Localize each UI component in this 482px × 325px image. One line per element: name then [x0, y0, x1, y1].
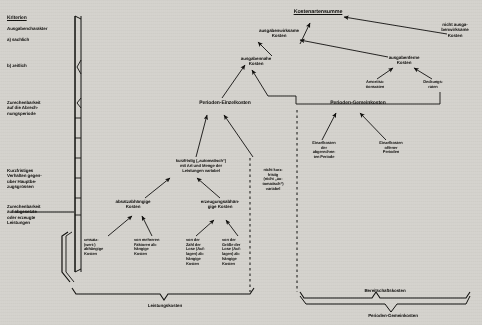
bracket-label-leistungskosten: Leistungskosten: [130, 303, 200, 308]
bracket-label-perioden-gemeinkosten: Perioden-Gemeinkosten: [348, 313, 438, 318]
arrow-zahl-to-erzeugung: [196, 220, 214, 236]
brace-leistungskosten: [72, 288, 254, 300]
arrow-erzeugung-to-kurzfristig: [197, 178, 220, 198]
arrow-kurzfristig-to-einzel: [196, 115, 207, 157]
node-ausgabenwirksame-kosten: ausgabenwirksame Kosten: [248, 28, 310, 39]
arrow-abgerechnet-to-gemein: [322, 113, 336, 140]
node-erzeugungsabhaengige-kosten: erzeugungsabhän- gige Kosten: [188, 199, 252, 210]
node-einzelkosten-offener-perioden: Einzelkosten offener Perioden: [370, 141, 412, 155]
arrow-umsatz-to-absatz: [108, 216, 132, 236]
node-nicht-ausgabenwirksame-kosten: nicht ausga- benwirksame Kosten: [432, 22, 478, 38]
criteria-item-ausgabencharakter: Ausgabencharakter: [7, 26, 47, 31]
criteria-item-sachlich: a) sachlich: [7, 37, 29, 42]
arrow-nahe-to-wirksam: [258, 42, 272, 56]
node-groesse-der-lose-kosten: von der Größe der Lose (Auf- lagen) ab- …: [222, 238, 256, 266]
node-amortisationsraten: Amortisa- tionsraten: [355, 80, 395, 89]
criteria-item-zurechenbarkeit-leistungen: Zurechenbarkeit auf abgesetzte oder erze…: [7, 204, 41, 225]
node-ausgabennahe-kosten: ausgabennahe Kosten: [228, 56, 284, 67]
node-mehrere-faktoren-kosten: von mehreren Faktoren ab- hängige Kosten: [134, 238, 174, 257]
arrow-amortisation-to-ferne: [377, 68, 393, 79]
node-umsatzabhaengige-kosten: umsatz- (wert-) abhängige Kosten: [84, 238, 120, 257]
arrow-periodengemein-to-nahe: [252, 70, 296, 104]
arrow-absatz-to-kurzfristig: [145, 178, 170, 198]
node-kostenartensumme: Kostenartensumme: [282, 9, 354, 15]
criteria-item-zeitlich: b) zeitlich: [7, 63, 27, 68]
arrow-periodeneinzel-to-nahe: [222, 65, 245, 98]
arrow-deckung-to-ferne: [414, 68, 432, 79]
node-perioden-gemeinkosten: Perioden-Gemeinkosten: [310, 101, 406, 107]
node-absatzabhaengige-kosten: absatzabhängige Kosten: [100, 199, 166, 210]
node-ausgabenferne-kosten: ausgabenferne Kosten: [376, 55, 432, 66]
node-nicht-kurzfristig-variabel: nicht kurz- fristig (nicht „au- tomatisc…: [255, 168, 291, 192]
arrow-offen-to-gemein: [360, 113, 386, 140]
node-perioden-einzelkosten: Perioden-Einzelkosten: [180, 101, 270, 107]
node-deckungsraten: Deckungs- raten: [414, 80, 452, 89]
diagram-canvas: Kriterien Ausgabencharakter a) sachlich …: [0, 0, 482, 325]
bracket-label-bereitschaftskosten: Bereitschaftskosten: [350, 288, 420, 293]
arrow-faktoren-to-absatz: [142, 216, 152, 236]
node-einzelkosten-abgerechnete-periode: Einzelkosten der abgerechne- ten Periode: [303, 141, 345, 160]
node-zahl-der-lose-kosten: von der Zahl der Lose (Auf- lagen) ab- h…: [186, 238, 220, 266]
arrow-nichtkurz-to-einzel: [224, 115, 253, 157]
criteria-heading: Kriterien: [7, 16, 27, 22]
arrow-groesse-to-erzeugung: [226, 220, 238, 236]
criteria-item-kurzfristiges-verhalten: Kurzfristiges Verhalten gegen- über Haup…: [7, 168, 42, 189]
arrow-ferne-to-wirksam: [300, 40, 388, 57]
criteria-item-zurechenbarkeit-periode: Zurechenbarkeit auf die Abrech- nungsper…: [7, 100, 41, 116]
node-kurzfristig-variabel: kurzfristig („automatisch“) mit Art und …: [145, 159, 257, 174]
